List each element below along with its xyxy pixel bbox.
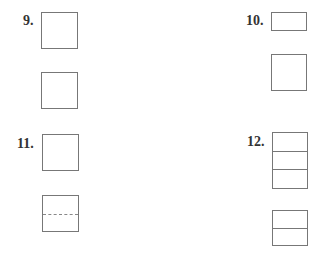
divider-line <box>273 169 307 170</box>
problem-number: 10. <box>246 14 264 28</box>
divider-line <box>273 228 307 229</box>
problem-number: 11. <box>17 137 34 151</box>
divider-line <box>273 151 307 152</box>
figure-shape <box>271 12 307 31</box>
figure-shape <box>41 72 78 109</box>
problem-number: 12. <box>247 135 265 149</box>
figure-shape <box>272 132 308 189</box>
figure-shape <box>41 12 78 49</box>
figure-shape <box>42 195 79 232</box>
figure-shape <box>272 210 308 246</box>
dashed-fold-line <box>43 214 78 215</box>
figure-shape <box>271 54 307 91</box>
figure-shape <box>42 134 79 171</box>
problem-number: 9. <box>23 14 34 28</box>
